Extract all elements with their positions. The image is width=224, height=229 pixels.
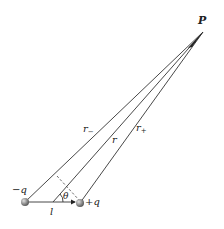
label-theta: θ: [63, 191, 69, 201]
r-center-line: [53, 32, 203, 202]
label-r-minus: r−: [83, 123, 94, 136]
negative-charge: [21, 198, 29, 206]
positive-charge: [76, 199, 84, 207]
dipole-diagram: P −q +q r− r r+ θ l: [0, 0, 224, 229]
label-point-p: P: [197, 14, 207, 27]
label-r-center: r: [112, 134, 118, 145]
r-plus-line: [80, 32, 203, 203]
r-minus-line: [25, 32, 203, 202]
label-r-plus: r+: [136, 122, 147, 135]
label-pos-charge: +q: [85, 196, 100, 207]
label-neg-charge: −q: [12, 184, 27, 195]
label-separation-l: l: [50, 206, 53, 217]
apex-wedge: [188, 32, 203, 48]
